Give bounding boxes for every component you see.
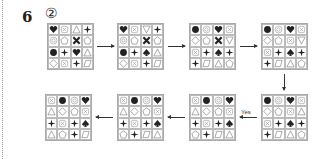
circle-icon <box>263 96 272 105</box>
parallelogram-icon <box>142 130 151 139</box>
spade-icon <box>153 119 162 128</box>
grid-cell <box>118 129 129 140</box>
grid-cell <box>224 24 235 35</box>
plus-icon <box>297 48 306 57</box>
grid-cell <box>118 118 129 129</box>
inv-triangle-icon <box>225 36 234 45</box>
pentagon-icon <box>58 130 67 139</box>
grid-cell <box>141 118 152 129</box>
xbox-icon <box>286 36 295 45</box>
grid-cell <box>71 24 82 35</box>
question-number: 6 <box>22 8 32 26</box>
pentagon-icon <box>297 59 306 68</box>
xbox-icon <box>286 107 295 116</box>
grid-cell <box>262 35 273 46</box>
grid-cell <box>213 58 224 69</box>
heart-icon <box>286 96 295 105</box>
plus-icon <box>142 59 151 68</box>
grid-cell <box>201 106 212 117</box>
grid-cell <box>262 58 273 69</box>
plus-icon <box>47 119 56 128</box>
grid-cell <box>201 129 212 140</box>
grid-cell <box>46 106 57 117</box>
grid-cell <box>69 95 80 106</box>
grid-cell <box>129 24 140 35</box>
xbox-icon <box>191 48 200 57</box>
pentagon-icon <box>130 36 139 45</box>
grid-cell <box>273 47 284 58</box>
xbox-icon <box>130 59 139 68</box>
arrow-left-icon <box>96 117 113 118</box>
grid-cell <box>82 24 93 35</box>
puzzle-grid-3 <box>189 23 236 70</box>
grid-cell <box>201 58 212 69</box>
grid-cell <box>82 58 93 69</box>
grid-cell <box>190 47 201 58</box>
spade-icon <box>286 119 295 128</box>
inv-triangle-icon <box>142 25 151 34</box>
grid-cell <box>213 95 224 106</box>
plus-icon <box>72 59 81 68</box>
cross-icon <box>72 36 81 45</box>
grid-cell <box>152 35 163 46</box>
cross-icon <box>142 36 151 45</box>
dotted-margin-line <box>2 0 3 159</box>
grid-cell <box>48 47 59 58</box>
circle-icon <box>191 25 200 34</box>
circle-icon <box>202 96 211 105</box>
diamond-icon <box>263 107 272 116</box>
grid-cell <box>213 35 224 46</box>
xbox-icon <box>81 107 90 116</box>
grid-cell <box>201 118 212 129</box>
xbox-icon <box>47 96 56 105</box>
spade-icon <box>81 119 90 128</box>
diamond-icon <box>49 59 58 68</box>
yes-label: Yes <box>241 109 251 115</box>
triangle-icon <box>153 48 162 57</box>
puzzle-grid-2 <box>117 23 164 70</box>
gear-icon <box>274 25 283 34</box>
spade-icon <box>225 119 234 128</box>
diamond-icon <box>119 59 128 68</box>
parallelogram-icon <box>83 59 92 68</box>
xbox-icon <box>263 119 272 128</box>
grid-cell <box>285 95 296 106</box>
grid-cell <box>46 95 57 106</box>
grid-cell <box>129 95 140 106</box>
xbox-icon <box>297 25 306 34</box>
plus-icon <box>225 48 234 57</box>
grid-cell <box>69 118 80 129</box>
grid-cell <box>69 129 80 140</box>
xbox-icon <box>58 119 67 128</box>
grid-cell <box>82 35 93 46</box>
grid-cell <box>190 95 201 106</box>
pentagon-icon <box>119 130 128 139</box>
plus-icon <box>202 130 211 139</box>
pentagon-icon <box>70 107 79 116</box>
grid-cell <box>273 58 284 69</box>
heart-icon <box>286 25 295 34</box>
puzzle-grid-8 <box>45 94 92 141</box>
grid-cell <box>71 47 82 58</box>
xbox-icon <box>130 25 139 34</box>
plus-icon <box>297 119 306 128</box>
pentagon-icon <box>153 36 162 45</box>
grid-cell <box>285 129 296 140</box>
plus-icon <box>263 130 272 139</box>
arrow-left-icon <box>168 117 185 118</box>
grid-cell <box>80 95 91 106</box>
plus-icon <box>263 59 272 68</box>
grid-cell <box>129 47 140 58</box>
xbox-icon <box>225 107 234 116</box>
gear-icon <box>142 96 151 105</box>
grid-cell <box>273 35 284 46</box>
gear-icon <box>49 36 58 45</box>
grid-cell <box>152 47 163 58</box>
triangle-icon <box>191 107 200 116</box>
gear-icon <box>214 96 223 105</box>
diamond-icon <box>263 36 272 45</box>
grid-cell <box>141 47 152 58</box>
plus-icon <box>142 119 151 128</box>
grid-cell <box>118 58 129 69</box>
arrow-right-icon <box>240 46 257 47</box>
